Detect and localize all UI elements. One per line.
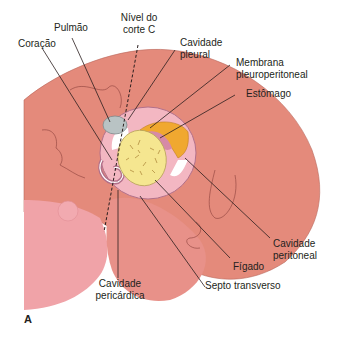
panel-letter: A	[24, 313, 32, 325]
label-membrana-pleuroperitoneal: Membrana pleuroperitoneal	[236, 57, 308, 80]
label-line: peritoneal	[273, 250, 317, 262]
label-line: Cavidade	[180, 37, 222, 49]
label-nivel-corte: Nível do corte C	[114, 12, 164, 35]
label-line: pleuroperitoneal	[236, 69, 308, 81]
label-line: pleural	[180, 49, 222, 61]
embryo-illustration	[0, 0, 337, 339]
label-estomago: Estômago	[246, 88, 291, 100]
label-cavidade-peritoneal: Cavidade peritoneal	[273, 238, 317, 261]
label-figado: Fígado	[233, 261, 264, 273]
label-coracao: Coração	[18, 38, 56, 50]
label-line: Cavidade	[88, 278, 152, 290]
label-line: Membrana	[236, 57, 308, 69]
embryo-diagram: Coração Pulmão Nível do corte C Cavidade…	[0, 0, 337, 339]
surface-bump	[58, 201, 78, 221]
label-nivel-line2: corte C	[114, 24, 164, 36]
label-cavidade-pericardica: Cavidade pericárdica	[88, 278, 152, 301]
label-line: Cavidade	[273, 238, 317, 250]
label-line: pericárdica	[88, 290, 152, 302]
label-cavidade-pleural: Cavidade pleural	[180, 37, 222, 60]
label-pulmao: Pulmão	[54, 22, 88, 34]
label-nivel-line1: Nível do	[114, 12, 164, 24]
label-septo-transverso: Septo transverso	[205, 280, 281, 292]
